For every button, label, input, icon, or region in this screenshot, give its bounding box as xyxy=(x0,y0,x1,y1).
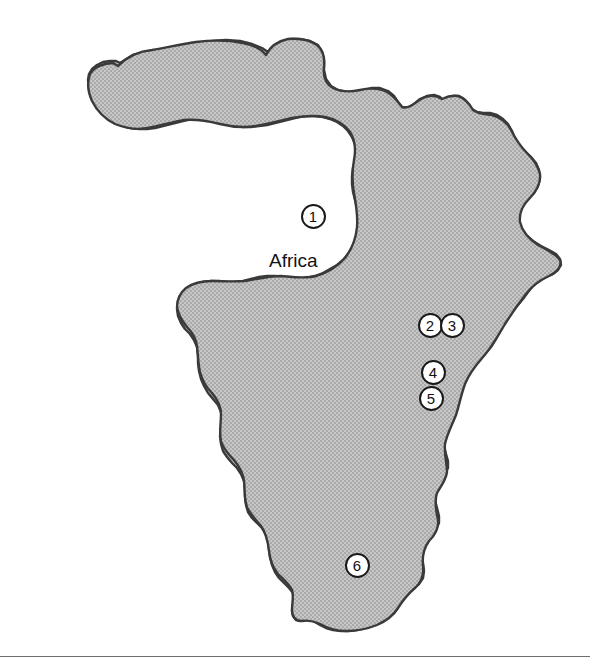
map-marker-4-number: 4 xyxy=(429,364,437,379)
footer-divider xyxy=(0,656,590,657)
map-marker-3[interactable]: 3 xyxy=(440,313,465,338)
map-marker-6-number: 6 xyxy=(353,557,361,572)
map-marker-2[interactable]: 2 xyxy=(418,313,443,338)
map-marker-5-number: 5 xyxy=(427,390,435,405)
africa-continent-shape xyxy=(0,0,590,671)
map-marker-1-number: 1 xyxy=(309,208,317,223)
africa-reference-map: Africa 1 2 3 4 5 6 xyxy=(0,0,590,671)
map-marker-4[interactable]: 4 xyxy=(421,360,446,385)
map-marker-5[interactable]: 5 xyxy=(419,386,444,411)
map-marker-3-number: 3 xyxy=(448,317,456,332)
continent-label: Africa xyxy=(269,250,318,272)
map-marker-1[interactable]: 1 xyxy=(301,204,326,229)
map-marker-6[interactable]: 6 xyxy=(345,553,370,578)
map-marker-2-number: 2 xyxy=(426,317,434,332)
